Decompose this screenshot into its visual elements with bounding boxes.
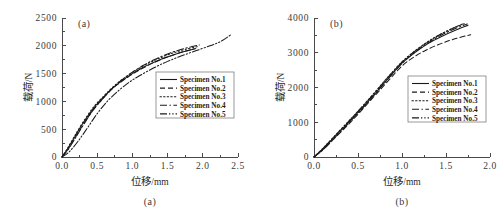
legend: Specimen No.1Specimen No.2Specimen No.3S… xyxy=(156,72,234,119)
panel-tag: (b) xyxy=(330,18,343,30)
y-tick-label: 1000 xyxy=(36,97,57,107)
y-tick-label: 4000 xyxy=(288,13,309,23)
y-tick-label: 1500 xyxy=(36,69,57,79)
legend-label-2: Specimen No.2 xyxy=(180,85,226,93)
y-tick-label: 2000 xyxy=(36,41,57,51)
x-tick-label: 2.0 xyxy=(483,161,497,171)
y-axis-title: 载荷/N xyxy=(23,73,34,103)
x-tick-label: 1.0 xyxy=(395,161,409,171)
y-tick-label: 2000 xyxy=(288,83,309,93)
y-tick-label: 500 xyxy=(41,125,57,135)
y-tick-label: 1000 xyxy=(288,118,309,128)
chart-panel-a: 050010001500200025000.00.51.01.52.02.5(a… xyxy=(0,0,252,221)
x-tick-label: 2.5 xyxy=(231,161,245,171)
y-tick-label: 3000 xyxy=(288,48,309,58)
svg-text:载荷/N: 载荷/N xyxy=(275,73,286,103)
legend-label-5: Specimen No.5 xyxy=(432,115,478,123)
x-tick-label: 0.0 xyxy=(307,161,321,171)
panel-caption: (a) xyxy=(144,196,156,208)
legend-label-1: Specimen No.1 xyxy=(180,76,226,84)
legend-label-4: Specimen No.4 xyxy=(180,102,226,110)
x-tick-label: 1.5 xyxy=(439,161,453,171)
x-tick-label: 0.5 xyxy=(351,161,365,171)
panel-caption: (b) xyxy=(396,196,409,208)
legend-label-2: Specimen No.2 xyxy=(432,89,478,97)
legend-label-3: Specimen No.3 xyxy=(180,93,226,101)
y-tick-label: 2500 xyxy=(36,13,57,23)
legend-label-5: Specimen No.5 xyxy=(180,111,226,119)
legend: Specimen No.1Specimen No.2Specimen No.3S… xyxy=(408,76,486,123)
x-axis-title: 位移/mm xyxy=(383,175,421,187)
svg-text:载荷/N: 载荷/N xyxy=(23,73,34,103)
x-tick-label: 2.0 xyxy=(196,161,210,171)
chart-panel-b: 010002000300040000.00.51.01.52.0(b)载荷/N位… xyxy=(252,0,504,221)
x-tick-label: 1.5 xyxy=(161,161,175,171)
y-axis-ticks: 05001000150020002500 xyxy=(36,13,66,162)
x-axis-ticks: 0.00.51.01.52.0 xyxy=(307,153,497,171)
panel-tag: (a) xyxy=(78,18,90,30)
x-tick-label: 0.0 xyxy=(55,161,69,171)
legend-label-3: Specimen No.3 xyxy=(432,97,478,105)
legend-label-4: Specimen No.4 xyxy=(432,106,478,114)
x-tick-label: 0.5 xyxy=(90,161,104,171)
x-tick-label: 1.0 xyxy=(126,161,140,171)
figure-two-panel-load-displacement: 050010001500200025000.00.51.01.52.02.5(a… xyxy=(0,0,504,221)
legend-label-1: Specimen No.1 xyxy=(432,80,478,88)
x-axis-title: 位移/mm xyxy=(131,175,169,187)
y-axis-title: 载荷/N xyxy=(275,73,286,103)
y-axis-ticks: 01000200030004000 xyxy=(288,13,318,162)
x-axis-ticks: 0.00.51.01.52.02.5 xyxy=(55,153,245,171)
